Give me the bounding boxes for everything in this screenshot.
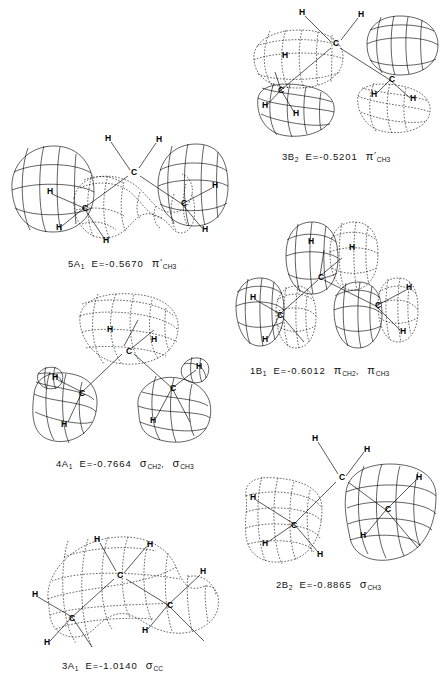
atom-label-H: H <box>150 415 156 425</box>
atom-label-C: C <box>117 570 123 580</box>
atom-label-H: H <box>105 133 111 143</box>
panel-3a1: H H C H C C H H H <box>20 495 242 647</box>
atom-label-H: H <box>406 282 412 292</box>
orbital-character-subscript: CC <box>153 665 163 672</box>
orbital-symmetry-label: 5A <box>68 258 81 269</box>
orbital-character-subscript-2: 3 <box>377 584 381 591</box>
atom-labels: H H C C H H C H H <box>250 236 412 344</box>
orbital-symmetry-subscript: 1 <box>263 370 267 377</box>
atom-label-C: C <box>333 38 339 48</box>
atom-label-H: H <box>416 472 422 482</box>
orbital-symmetry-subscript: 1 <box>75 665 79 672</box>
bond-framework <box>58 320 196 422</box>
atom-label-H: H <box>94 534 100 544</box>
orbital-character-subscript: CH <box>163 263 173 270</box>
orbital-symmetry-label: 3A <box>62 660 75 671</box>
orbital-character-symbol-2: σ <box>172 457 181 469</box>
atom-labels: H H C H C H H C H H <box>262 7 416 118</box>
atom-label-C: C <box>291 520 297 530</box>
atom-label-H: H <box>61 419 67 429</box>
orbital-diagram-2b2: H H C H C H H C H H <box>220 420 442 572</box>
orbital-lobe-right-solid <box>367 16 438 75</box>
orbital-diagram-3a1: H H C H C C H H H <box>20 495 242 647</box>
atom-label-H: H <box>47 186 53 196</box>
caption-1b1: 1B1 E=-0.6012 πCH2, πCH3 <box>250 364 389 377</box>
atom-label-H: H <box>196 361 202 371</box>
atom-label-H: H <box>44 637 50 647</box>
orbital-symmetry-subscript: 1 <box>69 463 73 470</box>
orbital-energy-label: E=-0.7664 <box>79 458 131 469</box>
atom-label-H: H <box>151 334 157 344</box>
panel-3b2: H H C H C H H C H H <box>248 2 446 142</box>
caption-separator: , <box>161 458 165 469</box>
atom-label-H: H <box>400 326 406 336</box>
atom-label-H: H <box>360 530 366 540</box>
orbital-energy-label: E=-0.8865 <box>299 579 351 590</box>
orbital-character-b-subscript: CH <box>180 463 190 470</box>
orbital-symmetry-subscript: 2 <box>289 584 293 591</box>
orbital-character-subscript: CH <box>377 156 387 163</box>
caption-5a1: 5A1 E=-0.5670 π′CH3 <box>68 257 176 270</box>
atom-label-H: H <box>142 625 148 635</box>
orbital-character-symbol: π <box>151 257 161 269</box>
orbital-energy-label: E=-0.5201 <box>305 151 357 162</box>
orbital-diagram-4a1: H H C H C H C H H <box>24 288 236 448</box>
orbital-symmetry-label: 2B <box>276 579 289 590</box>
atom-label-H: H <box>364 444 370 454</box>
atom-label-H: H <box>103 235 109 245</box>
atom-label-H: H <box>250 492 256 502</box>
atom-label-C: C <box>167 600 173 610</box>
orbital-character-subscript: CH <box>367 584 377 591</box>
atom-label-H: H <box>282 50 288 60</box>
panel-4a1: H H C H C H C H H <box>24 288 236 448</box>
atom-label-C: C <box>131 167 137 177</box>
orbital-energy-label: E=-0.5670 <box>91 258 143 269</box>
atom-label-H: H <box>262 334 268 344</box>
atom-label-C: C <box>69 613 75 623</box>
atom-label-H: H <box>32 589 38 599</box>
orbital-diagram-1b1: H H C C H H C H H <box>218 218 442 358</box>
atom-label-H: H <box>317 549 323 559</box>
panel-2b2: H H C H C H H C H H <box>220 420 442 572</box>
bond-framework <box>256 250 406 342</box>
atom-label-H: H <box>410 93 416 103</box>
orbital-character-subscript: CH <box>147 463 157 470</box>
atom-label-C: C <box>126 346 132 356</box>
atom-label-H: H <box>212 180 218 190</box>
atom-labels: H H C H C H H C H H <box>250 433 422 559</box>
orbital-symmetry-label: 4A <box>56 458 69 469</box>
atom-label-H: H <box>293 108 299 118</box>
caption-separator: , <box>356 365 360 376</box>
atom-label-C: C <box>385 504 391 514</box>
orbital-lobe-bottom-left-solid <box>33 367 97 443</box>
orbital-character-symbol-2: π <box>366 364 376 376</box>
atom-label-H: H <box>56 222 62 232</box>
atom-label-C: C <box>79 388 85 398</box>
caption-3a1: 3A1 E=-1.0140 σCC <box>62 659 163 672</box>
atom-label-H: H <box>371 89 377 99</box>
atom-label-H: H <box>262 538 268 548</box>
orbital-energy-label: E=-0.6012 <box>273 365 325 376</box>
orbital-diagram-5a1: H H C H C H H C H H <box>6 128 228 250</box>
orbital-lobe-left-dashed <box>245 477 322 564</box>
atom-label-H: H <box>52 372 58 382</box>
atom-label-C: C <box>339 472 345 482</box>
atom-label-H: H <box>312 433 318 443</box>
orbital-lobe-upper-dashed <box>330 222 378 290</box>
atom-label-H: H <box>349 242 355 252</box>
atom-label-H: H <box>107 324 113 334</box>
atom-label-H: H <box>200 566 206 576</box>
atom-label-C: C <box>318 272 324 282</box>
atom-label-H: H <box>202 224 208 234</box>
atom-label-H: H <box>299 7 305 17</box>
panel-1b1: H H C C H H C H H <box>218 218 442 358</box>
orbital-character-symbol: π <box>333 364 343 376</box>
orbital-symmetry-label: 1B <box>250 365 263 376</box>
caption-2b2: 2B2 E=-0.8865 σCH3 <box>276 578 381 591</box>
orbital-lobe-bottom-right-dashed <box>358 83 430 133</box>
atom-label-C: C <box>278 85 284 95</box>
orbital-character-symbol: π <box>365 150 375 162</box>
atom-label-C: C <box>181 198 187 208</box>
orbital-surface-dashed <box>48 537 219 647</box>
orbital-symmetry-label: 3B <box>282 151 295 162</box>
